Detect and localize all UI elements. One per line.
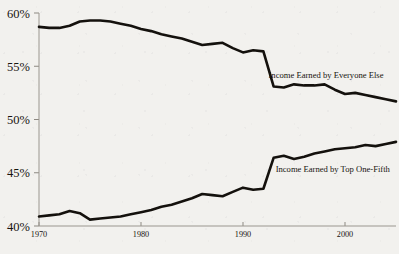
x-tick-label: 1980 <box>133 230 149 239</box>
y-axis-labels: 60%55%50%45%40% <box>7 7 30 234</box>
x-axis-labels: 1970198019902000 <box>31 230 353 239</box>
x-tick-label: 2000 <box>337 230 353 239</box>
chart-canvas: 60%55%50%45%40% 1970198019902000 Income … <box>0 0 399 254</box>
series-line <box>39 142 396 220</box>
series-lines <box>39 20 396 219</box>
y-tick-label: 55% <box>7 60 30 74</box>
y-tick-label: 50% <box>7 113 30 127</box>
y-tick-label: 40% <box>7 220 30 234</box>
income-share-line-chart: 60%55%50%45%40% 1970198019902000 Income … <box>0 0 399 254</box>
series-label: Income Earned by Everyone Else <box>269 70 384 80</box>
y-tick-label: 60% <box>7 7 30 21</box>
series-label: Income Earned by Top One-Fifth <box>276 164 391 174</box>
x-tick-label: 1970 <box>31 230 47 239</box>
x-tick-label: 1990 <box>235 230 251 239</box>
y-tick-label: 45% <box>7 166 30 180</box>
series-line <box>39 20 396 101</box>
x-axis-ticks <box>39 222 345 226</box>
y-axis-ticks <box>34 13 39 226</box>
